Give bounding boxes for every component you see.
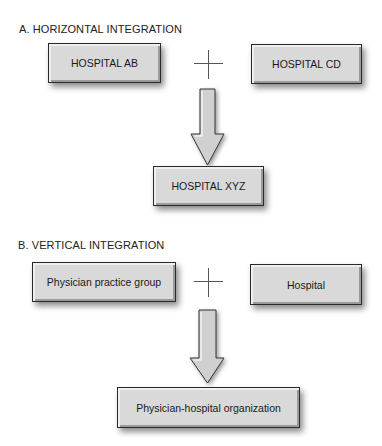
physician-practice-group-label: Physician practice group bbox=[47, 276, 161, 288]
down-arrow-icon bbox=[188, 86, 230, 168]
vertical-integration-heading: B. VERTICAL INTEGRATION bbox=[18, 239, 164, 251]
hospital-box: Hospital bbox=[250, 264, 362, 305]
hospital-xyz-box: HOSPITAL XYZ bbox=[153, 166, 264, 206]
hospital-xyz-label: HOSPITAL XYZ bbox=[171, 180, 245, 192]
hospital-cd-box: HOSPITAL CD bbox=[251, 44, 362, 84]
hospital-ab-box: HOSPITAL AB bbox=[48, 43, 161, 83]
physician-hospital-organization-label: Physician-hospital organization bbox=[136, 402, 281, 414]
plus-icon bbox=[194, 50, 223, 79]
down-arrow-icon bbox=[187, 307, 229, 387]
hospital-label: Hospital bbox=[287, 279, 325, 291]
physician-hospital-organization-box: Physician-hospital organization bbox=[117, 387, 300, 428]
hospital-ab-label: HOSPITAL AB bbox=[71, 57, 138, 69]
horizontal-integration-heading: A. HORIZONTAL INTEGRATION bbox=[19, 23, 182, 35]
plus-icon bbox=[194, 268, 223, 297]
hospital-cd-label: HOSPITAL CD bbox=[272, 58, 341, 70]
physician-practice-group-box: Physician practice group bbox=[32, 262, 176, 302]
